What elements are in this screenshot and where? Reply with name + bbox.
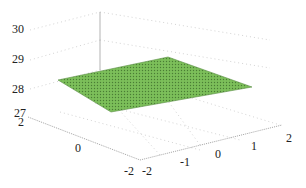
svg-text:28: 28 [12, 82, 24, 96]
svg-text:1: 1 [251, 139, 257, 153]
svg-text:29: 29 [12, 52, 24, 66]
svg-text:0: 0 [215, 147, 221, 161]
svg-text:0: 0 [75, 141, 81, 155]
svg-text:-2: -2 [124, 164, 134, 178]
z-tick-labels: 30 29 28 27 [12, 22, 26, 120]
svg-text:30: 30 [12, 22, 24, 36]
y-tick-labels: 2 0 -2 [18, 115, 134, 178]
surface-plane [58, 57, 252, 112]
x-axis [140, 125, 282, 160]
svg-text:-2: -2 [142, 164, 152, 178]
svg-text:2: 2 [286, 131, 292, 145]
surface-plot: 30 29 28 27 2 0 -2 -2 -1 0 1 2 [0, 0, 306, 188]
svg-text:-1: -1 [180, 155, 190, 169]
svg-text:2: 2 [18, 115, 24, 129]
x-tick-labels: -2 -1 0 1 2 [142, 131, 292, 178]
y-axis [28, 117, 140, 160]
